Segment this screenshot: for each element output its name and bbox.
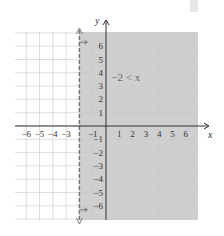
svg-text:2: 2 (130, 129, 135, 139)
svg-text:6: 6 (184, 129, 189, 139)
svg-text:−5: −5 (35, 129, 45, 139)
svg-text:3: 3 (99, 81, 104, 91)
svg-text:−4: −4 (93, 174, 103, 184)
svg-text:6: 6 (99, 41, 104, 51)
svg-text:2: 2 (99, 94, 104, 104)
svg-text:−2: −2 (93, 148, 103, 158)
svg-text:1: 1 (99, 108, 104, 118)
y-axis-label: y (94, 15, 100, 26)
svg-text:3: 3 (144, 129, 149, 139)
svg-text:4: 4 (157, 129, 162, 139)
inequality-label: −2 < x (111, 71, 140, 83)
x-axis-label: x (207, 129, 213, 140)
svg-text:−4: −4 (48, 129, 58, 139)
svg-text:5: 5 (99, 55, 104, 65)
inequality-graph: −6−5−4−3−1123456654321−1−2−3−4−5−6 x y −… (0, 0, 224, 236)
svg-text:−6: −6 (21, 129, 31, 139)
svg-text:5: 5 (170, 129, 175, 139)
svg-text:1: 1 (117, 129, 122, 139)
svg-text:−1: −1 (93, 134, 103, 144)
svg-text:4: 4 (99, 68, 104, 78)
svg-text:−6: −6 (93, 201, 103, 211)
svg-text:−3: −3 (93, 161, 103, 171)
svg-text:−3: −3 (61, 129, 71, 139)
svg-text:−5: −5 (93, 188, 103, 198)
